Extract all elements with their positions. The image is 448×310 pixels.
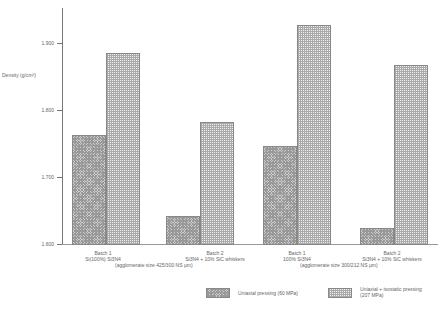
category-label: Batch 2 Si3N4 + 10% SiC whiskers: [160, 250, 270, 262]
category-label: Batch 1 Si(100%) Si3N4: [68, 250, 138, 262]
y-axis: [62, 8, 63, 245]
bar-uniaxial: [263, 146, 297, 245]
y-tick-label: 1.800: [20, 107, 54, 113]
category-label: Batch 2 Si3N4 + 10% SiC whiskers: [342, 250, 442, 262]
bar-uniaxial: [72, 135, 106, 245]
bar-isostatic: [297, 25, 331, 245]
group-label: (agglomerate size 300/212 NS µm): [300, 262, 378, 268]
legend-swatch-uniaxial: [206, 288, 230, 298]
bar-uniaxial: [360, 228, 394, 245]
legend-label: Uniaxial + isostatic pressing (207 MPa): [360, 286, 422, 298]
y-tick-label: 1.700: [20, 174, 54, 180]
category-label: Batch 1 100% Si3N4: [262, 250, 332, 262]
y-tick: [57, 43, 62, 44]
bar-isostatic: [200, 122, 234, 245]
legend-line: (207 MPa): [360, 292, 422, 298]
y-tick: [57, 110, 62, 111]
y-tick: [57, 244, 62, 245]
y-tick-label: 1.900: [20, 40, 54, 46]
group-label: (agglomerate size 425/300 NS µm): [115, 262, 193, 268]
y-tick-label: 1.600: [20, 241, 54, 247]
legend-swatch-isostatic: [328, 288, 352, 298]
bar-isostatic: [106, 53, 140, 245]
bar-uniaxial: [166, 216, 200, 245]
bar-isostatic: [394, 65, 428, 245]
legend-label: Uniaxial pressing (60 MPa): [238, 290, 298, 296]
y-tick: [57, 177, 62, 178]
y-axis-label: Density (g/cm³): [2, 72, 36, 78]
